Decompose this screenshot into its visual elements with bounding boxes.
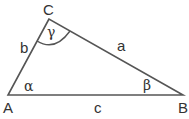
side-label-b: b — [20, 40, 28, 55]
vertex-label-a: A — [3, 100, 13, 115]
angle-label-beta: β — [143, 78, 151, 92]
vertex-label-c: C — [43, 2, 54, 17]
angle-label-alpha: α — [24, 79, 33, 93]
triangle-shape — [8, 19, 183, 95]
vertex-label-b: B — [178, 100, 188, 115]
angle-label-gamma: γ — [47, 25, 55, 39]
side-label-c: c — [94, 100, 102, 115]
side-label-a: a — [117, 38, 125, 53]
